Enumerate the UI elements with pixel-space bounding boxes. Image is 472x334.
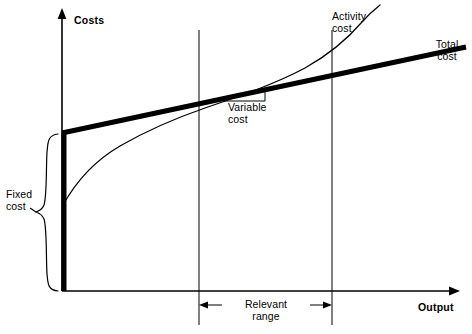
reference-lines	[199, 30, 332, 325]
relevant-range-label: Relevant range	[224, 298, 308, 322]
variable-cost-label: Variable cost	[228, 101, 267, 125]
total-cost-group	[62, 47, 466, 291]
relevant-range-arrowhead-left-icon	[199, 301, 208, 308]
axis-group	[58, 8, 460, 295]
relevant-range-arrowhead-right-icon	[323, 301, 332, 308]
x-axis-label: Output	[418, 301, 454, 313]
fixed-cost-label: Fixed cost	[6, 188, 32, 212]
fixed-cost-brace-path	[36, 134, 58, 291]
diagram-canvas	[0, 0, 472, 334]
activity-cost-label: Activity cost	[332, 10, 366, 34]
x-axis-arrowhead-icon	[449, 287, 460, 296]
y-axis-arrowhead-icon	[58, 8, 67, 19]
fixed-cost-brace	[30, 134, 58, 291]
y-axis-label: Costs	[74, 14, 104, 26]
cost-behaviour-diagram: Costs Output Activity cost Total cost Va…	[0, 0, 472, 334]
total-cost-label: Total cost	[424, 38, 470, 62]
